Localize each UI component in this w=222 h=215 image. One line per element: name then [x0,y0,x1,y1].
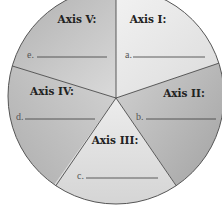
axis-i-blank-letter: a. [125,49,132,60]
axis-v-label: Axis V: [57,13,97,25]
axis-i-label: Axis I: [129,13,167,25]
axis-iv-label: Axis IV: [29,85,74,97]
axis-iii-blank-letter: c. [77,170,84,181]
axis-v-blank-letter: e. [27,49,34,60]
axis-ii-label: Axis II: [162,87,205,99]
axis-pie-diagram: Axis I: a. Axis II: b. Axis III: c. Axis… [0,0,222,215]
axis-iii-label: Axis III: [91,134,139,146]
axis-ii-blank-letter: b. [136,111,144,122]
axis-iv-blank-letter: d. [16,111,24,122]
